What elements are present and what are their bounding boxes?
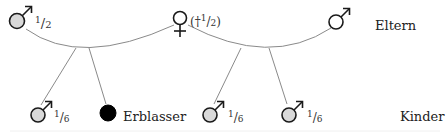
share-child-3: 1/6	[228, 109, 244, 125]
decedent-filled-circle-icon	[100, 105, 116, 121]
row-label-children: Kinder	[400, 109, 445, 124]
male-symbol-icon	[203, 102, 224, 123]
inheritance-diagram: 1/2 (†1/2) Eltern 1/6	[0, 0, 448, 136]
child-3: 1/6	[203, 102, 244, 126]
share-child-4: 1/6	[307, 109, 323, 125]
parent-father-2	[329, 9, 350, 30]
row-label-parents: Eltern	[375, 18, 417, 33]
descent-line-child3	[214, 48, 241, 104]
parent-father-1: 1/2	[10, 7, 52, 32]
female-symbol-icon	[174, 12, 187, 38]
decedent: Erblasser	[100, 105, 187, 124]
share-father-1: 1/2	[35, 15, 52, 31]
child-1: 1/6	[31, 102, 70, 126]
share-child-1: 1/6	[54, 109, 70, 125]
descent-line-child1	[41, 48, 76, 105]
male-symbol-icon	[329, 9, 350, 30]
male-symbol-icon	[282, 102, 303, 123]
child-4: 1/6	[282, 102, 323, 126]
descent-line-child4	[269, 48, 287, 104]
male-symbol-icon	[10, 7, 32, 29]
share-mother: (†1/2)	[190, 13, 221, 29]
parent-mother: (†1/2)	[174, 12, 221, 38]
descent-line-decedent	[89, 48, 106, 104]
decedent-label: Erblasser	[123, 109, 187, 124]
